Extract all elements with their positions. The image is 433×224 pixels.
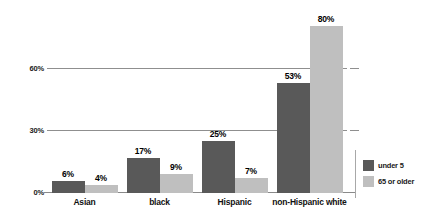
legend-label-older65: 65 or older	[378, 177, 414, 186]
legend-item-under5[interactable]: under 5	[363, 160, 414, 171]
bar-value-older65: 4%	[79, 173, 123, 183]
bar-groups: 6% 4% Asian 17% 9%	[47, 0, 347, 193]
bar-older65[interactable]	[310, 26, 343, 193]
bar-value-under5: 53%	[271, 71, 315, 81]
bar-value-older65: 80%	[304, 14, 348, 24]
bar-group-hispanic: 25% 7% Hispanic	[197, 0, 272, 193]
bars: 17% 9%	[122, 0, 197, 193]
category-label-hispanic: Hispanic	[197, 197, 272, 207]
bar-older65[interactable]	[235, 178, 268, 193]
legend-divider	[355, 150, 356, 198]
legend-item-older65[interactable]: 65 or older	[363, 176, 414, 187]
bar-wrap-under5: 25%	[202, 0, 235, 193]
bar-value-older65: 7%	[229, 166, 273, 176]
bars: 6% 4%	[47, 0, 122, 193]
bar-chart: 60% 30% 0% 6% 4% Asian 17	[0, 0, 433, 224]
bar-group-non-hispanic-white: 53% 80% non-Hispanic white	[272, 0, 347, 193]
bar-wrap-older65: 4%	[85, 0, 118, 193]
bar-value-older65: 9%	[154, 162, 198, 172]
legend-swatch-icon-under5	[363, 160, 374, 171]
bar-older65[interactable]	[160, 174, 193, 193]
tick-right-60	[350, 68, 359, 69]
bar-wrap-under5: 6%	[52, 0, 85, 193]
bar-wrap-older65: 80%	[310, 0, 343, 193]
legend-swatch-icon-older65	[363, 176, 374, 187]
legend: under 5 65 or older	[363, 160, 414, 187]
bar-under5[interactable]	[277, 83, 310, 193]
bar-value-under5: 17%	[121, 146, 165, 156]
bar-wrap-older65: 9%	[160, 0, 193, 193]
y-axis-label-60: 60%	[8, 64, 44, 73]
tick-right-30	[350, 130, 359, 131]
bar-group-black: 17% 9% black	[122, 0, 197, 193]
category-label-black: black	[122, 197, 197, 207]
legend-label-under5: under 5	[378, 161, 404, 170]
bar-wrap-older65: 7%	[235, 0, 268, 193]
bar-older65[interactable]	[85, 185, 118, 193]
category-label-asian: Asian	[47, 197, 122, 207]
bar-group-asian: 6% 4% Asian	[47, 0, 122, 193]
bar-value-under5: 25%	[196, 129, 240, 139]
category-label-non-hispanic-white: non-Hispanic white	[272, 197, 347, 207]
bars: 25% 7%	[197, 0, 272, 193]
bars: 53% 80%	[272, 0, 347, 193]
bar-wrap-under5: 53%	[277, 0, 310, 193]
y-axis-label-30: 30%	[8, 126, 44, 135]
y-axis-label-0: 0%	[8, 188, 44, 197]
